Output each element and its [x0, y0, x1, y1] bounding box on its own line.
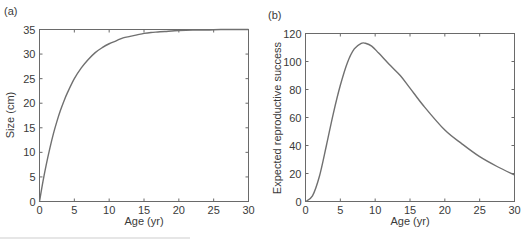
x-tick-label: 25	[474, 204, 486, 216]
y-tick-label: 15	[23, 122, 35, 134]
panel-a-size-curve	[40, 29, 249, 201]
x-tick-label: 20	[173, 204, 185, 216]
panel-b-reproductive-success-curve	[306, 43, 515, 202]
y-tick-label: 35	[23, 24, 35, 36]
panel-a: (a) 051015202530 05101520253035 Age (yr)…	[4, 5, 255, 227]
panel-b: (b) 051015202530 020406080100120 Age (yr…	[268, 9, 521, 227]
x-tick-label: 30	[242, 204, 254, 216]
panel-b-x-ticks: 051015202530	[302, 34, 520, 216]
x-tick-label: 5	[337, 204, 343, 216]
caption-text	[0, 237, 190, 239]
panel-b-y-axis-label: Expected reproductive success	[271, 41, 283, 194]
panel-b-label: (b)	[268, 9, 281, 21]
y-tick-label: 5	[29, 171, 35, 183]
panel-a-x-ticks: 051015202530	[36, 30, 254, 216]
panel-a-label: (a)	[4, 5, 17, 17]
panel-a-axes-frame	[40, 30, 249, 202]
y-tick-label: 120	[283, 28, 301, 40]
y-tick-label: 40	[289, 140, 301, 152]
x-tick-label: 30	[508, 204, 520, 216]
figure: (a) 051015202530 05101520253035 Age (yr)…	[0, 0, 529, 240]
panel-b-axes-frame	[306, 34, 515, 202]
y-tick-label: 60	[289, 112, 301, 124]
x-tick-label: 0	[302, 204, 308, 216]
y-tick-label: 20	[23, 97, 35, 109]
y-tick-label: 100	[283, 56, 301, 68]
x-tick-label: 10	[369, 204, 381, 216]
x-tick-label: 10	[103, 204, 115, 216]
panel-a-x-axis-label: Age (yr)	[124, 215, 163, 227]
x-tick-label: 15	[138, 204, 150, 216]
x-tick-label: 15	[404, 204, 416, 216]
panel-a-y-ticks: 05101520253035	[23, 24, 248, 208]
y-tick-label: 80	[289, 84, 301, 96]
x-tick-label: 0	[36, 204, 42, 216]
y-tick-label: 25	[23, 73, 35, 85]
x-tick-label: 5	[71, 204, 77, 216]
y-tick-label: 20	[289, 168, 301, 180]
panel-b-x-axis-label: Age (yr)	[390, 215, 429, 227]
x-tick-label: 25	[208, 204, 220, 216]
y-tick-label: 10	[23, 146, 35, 158]
y-tick-label: 30	[23, 48, 35, 60]
y-tick-label: 0	[295, 196, 301, 208]
figure-caption-clipped	[0, 234, 260, 240]
panel-a-y-axis-label: Size (cm)	[4, 92, 16, 138]
y-tick-label: 0	[29, 196, 35, 208]
x-tick-label: 20	[439, 204, 451, 216]
